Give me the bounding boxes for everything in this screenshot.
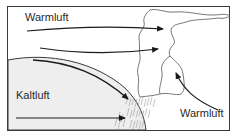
label-cold-air: Kaltluft (16, 90, 50, 101)
warm-air-arrow-2 (40, 48, 158, 53)
warm-air-rising-arrow (176, 73, 218, 110)
weather-front-diagram: Warmluft Kaltluft Warmluft (0, 0, 238, 139)
cloud-outline (138, 10, 230, 97)
label-warm-air-right: Warmluft (180, 108, 224, 119)
cloud-inner-outline (160, 56, 170, 94)
label-warm-air-top: Warmluft (25, 12, 69, 23)
